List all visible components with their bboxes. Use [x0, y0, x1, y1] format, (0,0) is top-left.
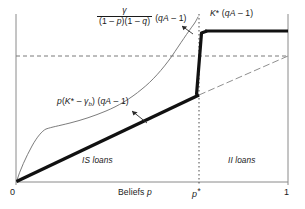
thick-line-label: p(K* – γb) (qA – 1): [57, 97, 129, 107]
formula-numerator: γ: [120, 6, 128, 16]
kstar-label: K* (qA – 1): [210, 9, 253, 18]
region-label-is-loans: IS loans: [82, 156, 113, 165]
x-axis-title-variable: p: [147, 187, 152, 197]
formula-fraction: γ (1 – p)(1 – q): [97, 6, 152, 26]
x-tick-label-pstar: p*: [192, 187, 201, 199]
formula-tail: (qA – 1): [155, 9, 186, 23]
region-label-ii-loans: II loans: [228, 156, 256, 165]
plot-canvas: [0, 0, 305, 209]
formula-label-gamma: γ (1 – p)(1 – q) (qA – 1): [97, 6, 187, 26]
x-axis-title: Beliefs p: [118, 188, 152, 197]
x-tick-label-0: 0: [10, 188, 15, 197]
x-axis-title-text: Beliefs: [118, 187, 147, 197]
thick-line-islands: [17, 95, 200, 182]
figure-container: γ (1 – p)(1 – q) (qA – 1) K* (qA – 1) p(…: [0, 0, 305, 209]
thick-jump-at-pstar: [197, 31, 208, 95]
leader-arrow-thick-line: [132, 111, 147, 123]
formula-denominator: (1 – p)(1 – q): [97, 16, 152, 27]
dashdot-continuation-line: [199, 56, 288, 95]
x-tick-label-1: 1: [284, 188, 289, 197]
